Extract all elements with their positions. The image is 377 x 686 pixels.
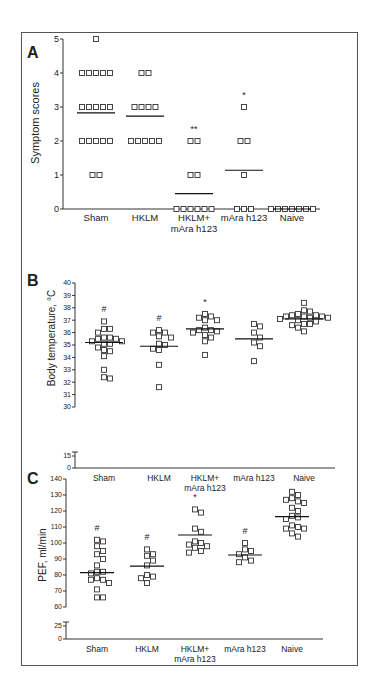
data-point bbox=[102, 367, 107, 372]
xlabel-combo-line1: HKLM+ bbox=[178, 212, 210, 223]
data-point bbox=[95, 544, 100, 549]
data-point bbox=[258, 324, 263, 329]
series-group bbox=[275, 489, 309, 539]
data-point bbox=[151, 330, 156, 335]
y-tick-label: 2 bbox=[54, 136, 59, 146]
xlabel-naive: Naive bbox=[293, 473, 315, 483]
data-point bbox=[296, 509, 301, 514]
data-point bbox=[101, 539, 106, 544]
data-point bbox=[136, 139, 141, 144]
significance-marker: # bbox=[101, 304, 106, 314]
data-point bbox=[199, 510, 204, 515]
data-point bbox=[188, 139, 193, 144]
data-point bbox=[290, 313, 295, 318]
data-point bbox=[95, 595, 100, 600]
data-point bbox=[95, 563, 100, 568]
data-point bbox=[290, 505, 295, 510]
panel-c-label: C bbox=[27, 470, 39, 487]
data-point bbox=[157, 328, 162, 333]
data-point bbox=[102, 335, 107, 340]
xlabel-sham: Sham bbox=[86, 644, 108, 654]
data-point bbox=[209, 207, 214, 212]
y-tick-label: 31 bbox=[63, 391, 71, 398]
data-point bbox=[145, 553, 150, 558]
series-group: * bbox=[178, 492, 212, 555]
data-point bbox=[188, 207, 193, 212]
y-tick-label: 34 bbox=[63, 354, 71, 361]
data-point bbox=[195, 139, 200, 144]
panel-b-points: ##* bbox=[85, 297, 331, 390]
data-point bbox=[203, 312, 208, 317]
significance-marker: # bbox=[94, 523, 99, 533]
data-point bbox=[102, 319, 107, 324]
data-point bbox=[209, 314, 214, 319]
significance-marker: * bbox=[203, 297, 207, 307]
panel-a-label: A bbox=[27, 44, 39, 61]
data-point bbox=[205, 544, 210, 549]
panel-b-xlabels: Sham HKLM HKLM+ mAra h123 mAra h123 Naiv… bbox=[93, 473, 315, 493]
data-point bbox=[284, 314, 289, 319]
xlabel-mara: mAra h123 bbox=[233, 473, 275, 483]
y-tick-label: 33 bbox=[63, 366, 71, 373]
data-point bbox=[146, 105, 151, 110]
data-point bbox=[191, 330, 196, 335]
data-point bbox=[87, 71, 92, 76]
significance-marker: # bbox=[242, 526, 247, 536]
panel-b: B Body temperature, °C 01530313233343536… bbox=[27, 272, 335, 493]
series-group bbox=[278, 300, 331, 334]
data-point bbox=[237, 560, 242, 565]
data-point bbox=[101, 595, 106, 600]
data-point bbox=[108, 335, 113, 340]
data-point bbox=[181, 207, 186, 212]
data-point bbox=[129, 139, 134, 144]
data-point bbox=[145, 547, 150, 552]
data-point bbox=[95, 552, 100, 557]
data-point bbox=[187, 542, 192, 547]
data-point bbox=[197, 315, 202, 320]
y-tick-label: 3 bbox=[54, 102, 59, 112]
data-point bbox=[290, 323, 295, 328]
data-point bbox=[242, 207, 247, 212]
data-point bbox=[215, 318, 220, 323]
data-point bbox=[96, 336, 101, 341]
series-group: # bbox=[140, 313, 178, 390]
panel-a-ylabel: Symptom scores bbox=[29, 82, 41, 164]
data-point bbox=[296, 499, 301, 504]
data-point bbox=[296, 525, 301, 530]
xlabel-sham: Sham bbox=[84, 212, 109, 223]
xlabel-combo-line1: HKLM+ bbox=[191, 473, 220, 483]
data-point bbox=[157, 341, 162, 346]
data-point bbox=[89, 571, 94, 576]
panel-c-points: ##*# bbox=[80, 489, 309, 600]
xlabel-mara: mAra h123 bbox=[224, 644, 266, 654]
xlabel-naive: Naive bbox=[280, 212, 304, 223]
data-point bbox=[296, 325, 301, 330]
data-point bbox=[243, 541, 248, 546]
data-point bbox=[108, 139, 113, 144]
data-point bbox=[203, 333, 208, 338]
data-point bbox=[157, 334, 162, 339]
data-point bbox=[308, 321, 313, 326]
data-point bbox=[163, 330, 168, 335]
y-tick-label: 15 bbox=[63, 452, 71, 459]
data-point bbox=[169, 335, 174, 340]
data-point bbox=[242, 105, 247, 110]
data-point bbox=[209, 335, 214, 340]
panel-a-points: *** bbox=[77, 37, 316, 212]
data-point bbox=[258, 344, 263, 349]
series-group bbox=[269, 207, 316, 212]
data-point bbox=[94, 37, 99, 42]
data-point bbox=[245, 139, 250, 144]
data-point bbox=[237, 552, 242, 557]
data-point bbox=[150, 139, 155, 144]
xlabel-hklm: HKLM bbox=[132, 212, 158, 223]
data-point bbox=[199, 529, 204, 534]
data-point bbox=[95, 587, 100, 592]
data-point bbox=[290, 531, 295, 536]
data-point bbox=[193, 507, 198, 512]
data-point bbox=[193, 526, 198, 531]
y-tick-label: 5 bbox=[54, 34, 59, 44]
series-group: * bbox=[186, 297, 224, 357]
xlabel-hklm: HKLM bbox=[135, 644, 159, 654]
data-point bbox=[195, 207, 200, 212]
